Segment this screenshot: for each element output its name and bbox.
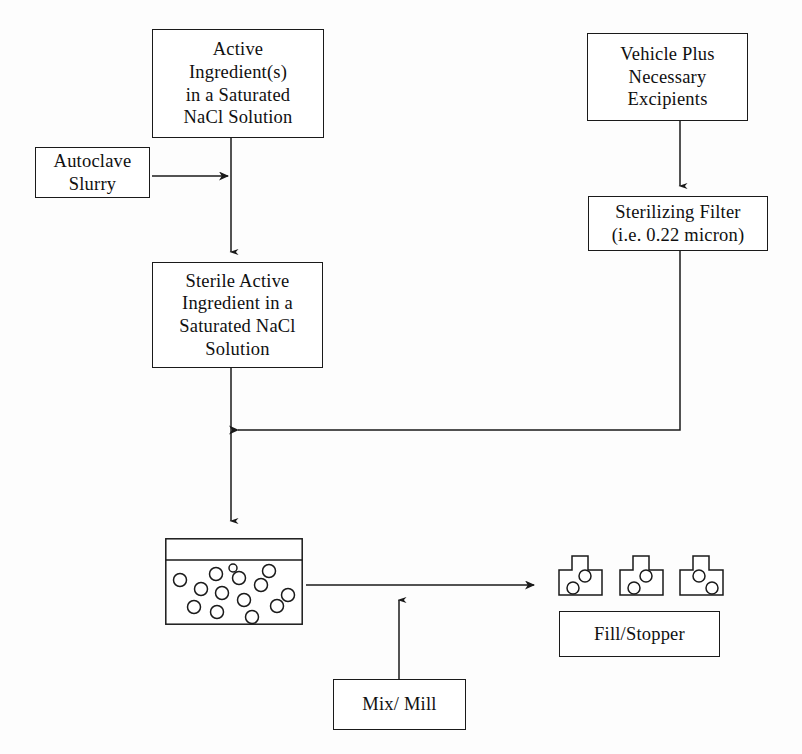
- vial-1: [559, 556, 602, 595]
- box-active-ingredient-label: Active Ingredient(s) in a Saturated NaCl…: [180, 38, 297, 128]
- flowchart-canvas: Active Ingredient(s) in a Saturated NaCl…: [0, 0, 802, 754]
- box-sterilizing-filter[interactable]: Sterilizing Filter (i.e. 0.22 micron): [588, 196, 768, 251]
- box-fill-stopper[interactable]: Fill/Stopper: [559, 611, 720, 657]
- box-mix-mill-label: Mix/ Mill: [358, 693, 440, 716]
- box-active-ingredient[interactable]: Active Ingredient(s) in a Saturated NaCl…: [152, 29, 324, 138]
- box-mix-mill[interactable]: Mix/ Mill: [333, 679, 466, 730]
- box-sterile-active-ingredient-label: Sterile Active Ingredient in a Saturated…: [175, 270, 299, 360]
- box-vehicle-plus-excipients-label: Vehicle Plus Necessary Excipients: [616, 43, 718, 111]
- stoppered-vials-icon: [558, 550, 724, 602]
- box-autoclave-slurry-label: Autoclave Slurry: [50, 150, 136, 195]
- suspension-vessel-icon: [165, 538, 303, 625]
- box-fill-stopper-label: Fill/Stopper: [590, 623, 689, 646]
- box-vehicle-plus-excipients[interactable]: Vehicle Plus Necessary Excipients: [587, 33, 748, 121]
- box-autoclave-slurry[interactable]: Autoclave Slurry: [35, 147, 150, 198]
- box-sterilizing-filter-label: Sterilizing Filter (i.e. 0.22 micron): [608, 201, 749, 246]
- vial-3: [680, 556, 723, 595]
- box-sterile-active-ingredient[interactable]: Sterile Active Ingredient in a Saturated…: [152, 262, 323, 368]
- vial-2: [620, 556, 663, 595]
